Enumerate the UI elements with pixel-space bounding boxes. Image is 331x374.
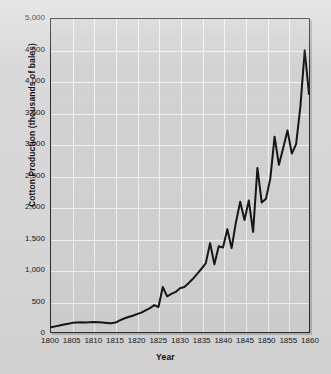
y-axis-tick-label: 2,500 bbox=[0, 172, 45, 180]
y-axis-tick-label: 4,000 bbox=[0, 77, 45, 85]
x-axis-tick-label: 1860 bbox=[290, 336, 330, 345]
x-axis-title: Year bbox=[0, 352, 331, 362]
y-axis-tick-label: 2,000 bbox=[0, 203, 45, 211]
y-axis-tick-label: 3,000 bbox=[0, 140, 45, 148]
y-axis-tick-label: 3,500 bbox=[0, 109, 45, 117]
y-axis-tick-label: 1,500 bbox=[0, 235, 45, 243]
y-axis-tick-label: 1,000 bbox=[0, 266, 45, 274]
y-axis-tick-label: 5,000 bbox=[0, 14, 45, 22]
y-axis-tick-label: 500 bbox=[0, 298, 45, 306]
y-axis-tick-label: 4,500 bbox=[0, 46, 45, 54]
cotton-production-chart-figure: 05001,0001,5002,0002,5003,0003,5004,0004… bbox=[0, 0, 331, 374]
y-axis-title: Cotton Production (thousands of bales) bbox=[27, 30, 37, 220]
chart-page: 05001,0001,5002,0002,5003,0003,5004,0004… bbox=[0, 0, 331, 374]
plot-area bbox=[50, 18, 310, 333]
data-series-line bbox=[51, 19, 309, 332]
